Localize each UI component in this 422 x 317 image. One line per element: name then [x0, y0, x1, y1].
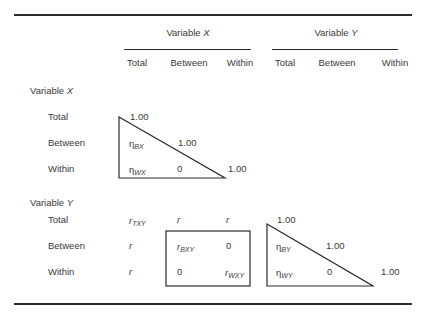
- subscript: BXY: [180, 246, 194, 253]
- cell-y-between-xwithin: 0: [226, 240, 231, 251]
- cell-y-within-xwithin: rWXY: [225, 267, 244, 281]
- cell-y-between-xtotal: r: [129, 240, 132, 251]
- cell-y-within-ytotal: ηWY: [276, 267, 293, 281]
- subscript: WXY: [228, 272, 244, 279]
- cell-x-within-total: ηWX: [129, 164, 146, 178]
- cell-x-between-total: ηBX: [129, 138, 144, 152]
- cell-x-between-between: 1.00: [178, 137, 197, 148]
- subscript: BY: [281, 246, 290, 253]
- cell-x-within-between: 0: [177, 163, 182, 174]
- cell-y-within-ywithin: 1.00: [381, 266, 400, 277]
- subscript: BX: [134, 143, 143, 150]
- cell-x-total-total: 1.00: [130, 111, 149, 122]
- subscript: WY: [281, 272, 292, 279]
- cell-y-total-xtotal: rTXY: [129, 215, 146, 229]
- matrix-outline-shapes: [0, 0, 422, 317]
- cell-y-total-ytotal: 1.00: [277, 214, 296, 225]
- cell-y-within-xtotal: r: [129, 266, 132, 277]
- cell-y-between-ybetween: 1.00: [326, 240, 345, 251]
- cell-y-total-xwithin: r: [226, 214, 229, 225]
- cell-y-between-ytotal: ηBY: [276, 241, 291, 255]
- cell-y-between-xbetween: rBXY: [177, 241, 194, 255]
- cell-x-within-within: 1.00: [228, 163, 247, 174]
- cell-y-total-xbetween: r: [177, 214, 180, 225]
- subscript: TXY: [132, 220, 146, 227]
- cell-y-within-ybetween: 0: [327, 266, 332, 277]
- subscript: WX: [134, 169, 145, 176]
- cell-y-within-xbetween: 0: [177, 266, 182, 277]
